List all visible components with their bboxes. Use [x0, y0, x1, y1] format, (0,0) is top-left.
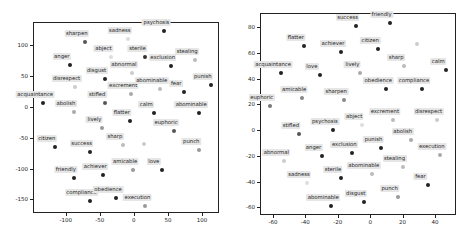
data-point: [130, 71, 134, 75]
x-tick-label: -20: [333, 219, 342, 225]
data-point: [109, 55, 113, 59]
point-label: flatter: [112, 109, 131, 116]
y-tick-label: -100: [16, 166, 28, 172]
point-label: abnormal: [262, 149, 290, 156]
x-tick-mark: [100, 213, 101, 216]
y-tick-mark: [30, 169, 33, 170]
point-label: psychosis: [142, 19, 171, 26]
x-tick-label: -50: [95, 217, 104, 223]
data-point: [88, 150, 92, 154]
data-point: [415, 42, 419, 46]
y-tick-mark: [30, 107, 33, 108]
point-label: stealing: [175, 48, 199, 55]
point-label: punish: [192, 73, 213, 80]
data-point: [114, 196, 118, 200]
point-label: sadness: [287, 171, 312, 178]
data-point: [129, 92, 133, 96]
data-point: [282, 159, 286, 163]
data-point: [329, 204, 333, 208]
data-point: [73, 85, 77, 89]
data-point: [172, 129, 176, 133]
point-label: exclusion: [149, 54, 177, 61]
data-point: [101, 173, 105, 177]
point-label: anger: [304, 144, 322, 151]
data-point: [331, 128, 335, 132]
data-point: [402, 64, 406, 68]
y-tick-mark: [257, 27, 260, 28]
point-label: punish: [363, 136, 384, 143]
x-tick-label: 0: [132, 217, 136, 223]
x-tick-mark: [273, 215, 274, 218]
y-tick-label: -40: [246, 179, 255, 185]
data-point: [409, 138, 413, 142]
data-point: [388, 21, 392, 25]
point-label: love: [147, 158, 161, 165]
y-tick-label: 80: [248, 24, 255, 30]
y-tick-label: 0: [252, 127, 256, 133]
data-point: [209, 83, 213, 87]
data-point: [376, 47, 380, 51]
x-tick-label: 50: [164, 217, 171, 223]
x-tick-label: -60: [268, 219, 277, 225]
point-label: disgust: [345, 190, 367, 197]
point-label: abolish: [55, 100, 77, 107]
y-tick-mark: [30, 199, 33, 200]
point-label: citizen: [37, 135, 57, 142]
data-point: [339, 176, 343, 180]
y-tick-mark: [257, 53, 260, 54]
data-point: [420, 87, 424, 91]
data-point: [169, 64, 173, 68]
y-tick-label: -50: [19, 135, 28, 141]
x-tick-label: 20: [399, 219, 406, 225]
data-point: [197, 148, 201, 152]
data-point: [182, 90, 186, 94]
point-label: flatter: [286, 34, 305, 41]
data-point: [88, 199, 92, 203]
point-label: euphoric: [249, 94, 275, 101]
point-label: calm: [430, 58, 446, 65]
point-label: amicable: [281, 86, 308, 93]
data-point: [339, 50, 343, 54]
y-tick-mark: [257, 104, 260, 105]
data-point: [83, 40, 87, 44]
x-tick-mark: [202, 213, 203, 216]
data-point: [158, 87, 162, 91]
point-label: disrespect: [51, 75, 81, 82]
point-label: amicable: [112, 158, 139, 165]
point-label: disgust: [85, 67, 107, 74]
data-point: [370, 172, 374, 176]
point-label: excrement: [369, 108, 400, 115]
y-tick-mark: [30, 138, 33, 139]
x-tick-mark: [66, 213, 67, 216]
data-point: [152, 111, 156, 115]
data-point: [438, 153, 442, 157]
data-point: [362, 200, 366, 204]
point-label: abolish: [392, 128, 414, 135]
point-label: abominable: [174, 101, 208, 108]
data-point: [358, 71, 362, 75]
data-point: [268, 104, 272, 108]
point-label: sadness: [107, 27, 132, 34]
point-label: acquaintance: [254, 61, 293, 68]
point-label: stealing: [383, 155, 407, 162]
data-point: [320, 154, 324, 158]
x-tick-mark: [403, 215, 404, 218]
data-point: [297, 132, 301, 136]
point-label: fear: [414, 173, 428, 180]
x-tick-label: 0: [368, 219, 372, 225]
data-point: [143, 55, 147, 59]
data-point: [193, 58, 197, 62]
y-tick-mark: [30, 76, 33, 77]
data-point: [302, 44, 306, 48]
point-label: sterile: [128, 45, 147, 52]
x-tick-mark: [168, 213, 169, 216]
y-tick-mark: [30, 45, 33, 46]
point-label: abominable: [135, 77, 169, 84]
point-label: lively: [86, 116, 103, 123]
y-tick-label: 40: [248, 76, 255, 82]
y-tick-label: -150: [16, 196, 28, 202]
data-point: [68, 63, 72, 67]
point-label: calm: [138, 101, 154, 108]
data-point: [103, 101, 107, 105]
data-point: [384, 87, 388, 91]
